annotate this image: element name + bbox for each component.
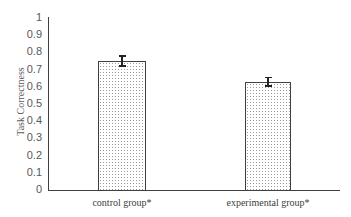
y-axis-label: Task Correctness bbox=[15, 62, 26, 142]
y-tick-label: 0 bbox=[36, 184, 42, 195]
error-bar-cap bbox=[119, 55, 126, 57]
y-axis-line bbox=[48, 17, 49, 191]
y-tick-label: 0.3 bbox=[27, 132, 42, 143]
y-tick-label: 0.6 bbox=[27, 81, 42, 92]
y-tick-label: 0.4 bbox=[27, 115, 42, 126]
y-tick-label: 0.5 bbox=[27, 98, 42, 109]
y-tick-label: 0.7 bbox=[27, 64, 42, 75]
y-tick-label: 0.2 bbox=[27, 150, 42, 161]
y-tick-label: 0.9 bbox=[27, 29, 42, 40]
bar-control-group bbox=[98, 61, 146, 190]
error-bar-cap bbox=[265, 77, 272, 79]
error-bar-cap bbox=[119, 65, 126, 67]
y-tick-label: 1 bbox=[36, 12, 42, 23]
x-axis-line bbox=[48, 190, 340, 191]
error-bar-cap bbox=[265, 85, 272, 87]
x-label-experimental-group: experimental group* bbox=[198, 197, 338, 208]
bar-experimental-group bbox=[245, 82, 291, 190]
y-tick-label: 0.8 bbox=[27, 46, 42, 57]
x-label-control-group: control group* bbox=[52, 197, 192, 208]
y-tick-label: 0.1 bbox=[27, 167, 42, 178]
